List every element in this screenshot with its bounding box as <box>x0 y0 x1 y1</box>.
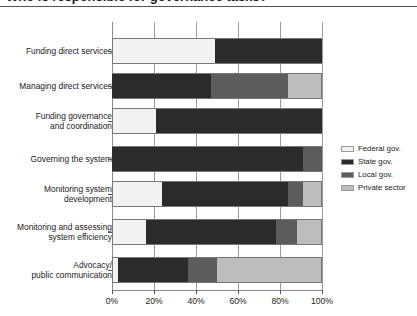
legend-item-local-gov[interactable]: Local gov. <box>341 169 417 180</box>
x-axis-tick <box>280 290 281 294</box>
bar-row[interactable] <box>112 219 322 245</box>
bar-segment-state-gov[interactable] <box>112 146 303 172</box>
bar-segment-state-gov[interactable] <box>112 73 211 99</box>
bar-segment-federal-gov[interactable] <box>112 108 156 134</box>
category-label-line: development <box>4 194 112 205</box>
legend-label: Private sector <box>358 183 406 192</box>
bar-row[interactable] <box>112 181 322 207</box>
category-axis: Funding direct servicesManaging direct s… <box>0 0 112 316</box>
category-label-line: Managing direct services <box>4 81 112 92</box>
legend-swatch-icon <box>341 146 354 152</box>
chart-legend: Federal gov.State gov.Local gov.Private … <box>341 143 417 195</box>
plot-area <box>112 22 322 290</box>
legend-item-state-gov[interactable]: State gov. <box>341 156 417 167</box>
legend-swatch-icon <box>341 172 354 178</box>
x-axis-label: 40% <box>187 296 204 306</box>
x-axis-line <box>112 290 323 291</box>
category-label-line: and coordination <box>4 121 112 132</box>
category-label-line: Governing the system <box>4 154 112 165</box>
legend-label: State gov. <box>358 157 393 166</box>
x-axis-tick <box>154 290 155 294</box>
category-label-line: public communication <box>4 270 112 281</box>
category-label: Monitoring and assessingsystem efficienc… <box>4 222 112 243</box>
category-label-line: system efficiency <box>4 232 112 243</box>
x-axis-tick <box>322 290 323 294</box>
x-axis-tick <box>196 290 197 294</box>
bar-segment-federal-gov[interactable] <box>112 38 215 64</box>
bar-segment-local-gov[interactable] <box>188 257 217 283</box>
x-axis-label: 20% <box>145 296 162 306</box>
bar-segment-private-sector[interactable] <box>297 219 322 245</box>
bar-segment-state-gov[interactable] <box>215 38 322 64</box>
category-label-line: Funding governance <box>4 111 112 122</box>
gridline-100 <box>322 22 323 290</box>
x-axis-tick <box>238 290 239 294</box>
category-label: Governing the system <box>4 154 112 165</box>
legend-item-federal-gov[interactable]: Federal gov. <box>341 143 417 154</box>
bar-row[interactable] <box>112 146 322 172</box>
bar-segment-local-gov[interactable] <box>303 146 322 172</box>
category-label: Funding direct services <box>4 46 112 57</box>
x-axis-label: 100% <box>311 296 333 306</box>
bar-segment-federal-gov[interactable] <box>112 219 146 245</box>
category-label-line: Funding direct services <box>4 46 112 57</box>
category-label: Managing direct services <box>4 81 112 92</box>
legend-label: Local gov. <box>358 170 393 179</box>
bar-segment-state-gov[interactable] <box>118 257 187 283</box>
x-axis-label: 80% <box>271 296 288 306</box>
bar-row[interactable] <box>112 73 322 99</box>
legend-swatch-icon <box>341 159 354 165</box>
bar-segment-private-sector[interactable] <box>217 257 322 283</box>
category-label-line: Monitoring system <box>4 184 112 195</box>
bar-segment-local-gov[interactable] <box>276 219 297 245</box>
bar-row[interactable] <box>112 257 322 283</box>
bar-segment-federal-gov[interactable] <box>112 181 162 207</box>
legend-label: Federal gov. <box>358 144 401 153</box>
bar-segment-private-sector[interactable] <box>303 181 322 207</box>
bar-segment-private-sector[interactable] <box>288 73 322 99</box>
bar-segment-state-gov[interactable] <box>146 219 276 245</box>
category-label: Advocacy/public communication <box>4 260 112 281</box>
x-axis-tick <box>112 290 113 294</box>
legend-swatch-icon <box>341 185 354 191</box>
bar-segment-state-gov[interactable] <box>162 181 288 207</box>
bar-segment-state-gov[interactable] <box>156 108 322 134</box>
category-label: Monitoring systemdevelopment <box>4 184 112 205</box>
category-label-line: Monitoring and assessing <box>4 222 112 233</box>
category-label: Funding governanceand coordination <box>4 111 112 132</box>
bar-row[interactable] <box>112 38 322 64</box>
x-axis-label: 0% <box>106 296 118 306</box>
bar-segment-local-gov[interactable] <box>288 181 303 207</box>
legend-item-private-sector[interactable]: Private sector <box>341 182 417 193</box>
bar-segment-local-gov[interactable] <box>211 73 289 99</box>
category-label-line: Advocacy/ <box>4 260 112 271</box>
x-axis-label: 60% <box>229 296 246 306</box>
bar-row[interactable] <box>112 108 322 134</box>
